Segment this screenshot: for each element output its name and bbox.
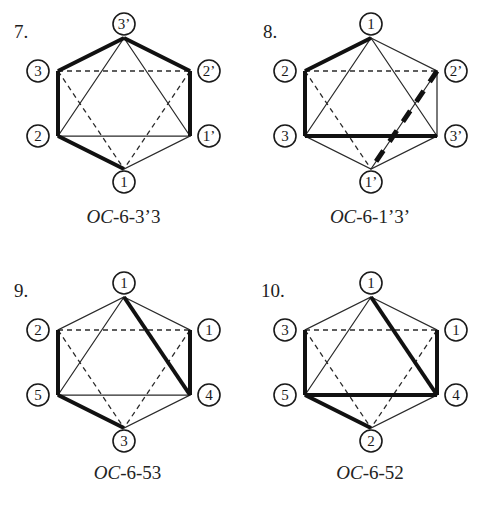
bold-edge-top-lowerright <box>124 297 190 395</box>
vertex-label-upper-right: 2’ <box>445 60 467 82</box>
vertex-label-upper-left: 3 <box>274 319 296 341</box>
vertex-label-text: 3 <box>281 128 289 144</box>
vertex-label-upper-left: 2 <box>274 60 296 82</box>
bold-edge-lowerleft-bottom <box>58 136 124 169</box>
vertex-label-text: 5 <box>34 387 42 403</box>
vertex-label-text: 2 <box>34 322 42 338</box>
bold-edge-top-upperleft <box>305 38 371 71</box>
bold-edge-top-upperleft <box>58 38 124 71</box>
vertex-label-upper-right: 1 <box>198 319 220 341</box>
vertex-label-text: 1 <box>452 322 460 338</box>
caption-rest: -6-1’3’ <box>356 206 410 227</box>
hexagon-outline <box>58 38 190 169</box>
vertex-label-upper-left: 3 <box>27 60 49 82</box>
caption-prefix: OC <box>336 462 362 483</box>
vertex-label-text: 3’ <box>450 128 463 144</box>
octahedron-diagram-9: 1 2 1 5 4 3 <box>0 259 247 474</box>
vertex-label-text: 1 <box>205 322 213 338</box>
solid-inner-left <box>305 297 371 395</box>
vertex-label-lower-left: 2 <box>27 125 49 147</box>
bold-edge-lowerleft-bottom <box>58 395 124 428</box>
caption-rest: -6-52 <box>363 462 404 483</box>
vertex-label-upper-right: 1 <box>445 319 467 341</box>
caption-prefix: OC <box>330 206 356 227</box>
vertex-label-bottom: 1 <box>113 171 135 193</box>
vertex-label-text: 3’ <box>118 16 131 32</box>
vertex-label-lower-right: 3’ <box>445 125 467 147</box>
vertex-label-upper-left: 2 <box>27 319 49 341</box>
panel-caption: OC-6-3’3 <box>0 206 247 228</box>
vertex-label-top: 3’ <box>113 13 135 35</box>
vertex-label-lower-right: 4 <box>198 384 220 406</box>
vertex-label-text: 2 <box>281 63 289 79</box>
vertex-label-top: 1 <box>360 272 382 294</box>
panel-10: 10. 1 3 1 <box>247 259 493 518</box>
panel-caption: OC-6-52 <box>247 462 493 484</box>
vertex-label-bottom: 2 <box>360 430 382 452</box>
vertex-label-text: 4 <box>205 387 213 403</box>
caption-rest: -6-3’3 <box>113 206 160 227</box>
vertex-label-text: 2’ <box>450 63 463 79</box>
vertex-label-text: 2 <box>34 128 42 144</box>
panel-9: 9. 1 2 1 <box>0 259 247 518</box>
vertex-label-text: 1’ <box>365 174 378 190</box>
vertex-label-text: 1 <box>120 275 128 291</box>
caption-rest: -6-53 <box>120 462 161 483</box>
vertex-label-bottom: 3 <box>113 430 135 452</box>
dashed-edge-left <box>305 71 371 169</box>
vertex-label-top: 1 <box>360 13 382 35</box>
dashed-edge-right <box>124 71 190 169</box>
vertex-label-text: 5 <box>281 387 289 403</box>
caption-prefix: OC <box>94 462 120 483</box>
bold-edge-top-upperright <box>124 38 190 71</box>
vertex-label-text: 3 <box>120 433 128 449</box>
panel-caption: OC-6-53 <box>0 462 251 484</box>
vertex-label-text: 3 <box>34 63 42 79</box>
bold-edge-top-lowerright <box>371 297 437 395</box>
vertex-label-lower-left: 5 <box>27 384 49 406</box>
octahedron-diagram-8: 1 2 2’ 3 3’ 1’ <box>247 0 493 215</box>
vertex-label-text: 1’ <box>203 128 216 144</box>
vertex-label-text: 2’ <box>203 63 216 79</box>
hexagon-outline <box>305 38 437 169</box>
vertex-label-top: 1 <box>113 272 135 294</box>
bold-edge-lowerleft-bottom <box>305 395 371 428</box>
vertex-label-upper-right: 2’ <box>198 60 220 82</box>
panel-7: 7. 3’ 3 <box>0 0 247 259</box>
vertex-label-text: 4 <box>452 387 460 403</box>
octahedron-diagram-10: 1 3 1 5 4 2 <box>247 259 493 474</box>
vertex-label-lower-left: 5 <box>274 384 296 406</box>
vertex-label-bottom: 1’ <box>360 171 382 193</box>
vertex-label-text: 2 <box>367 433 375 449</box>
figure-grid: 7. 3’ 3 <box>0 0 493 518</box>
vertex-label-lower-left: 3 <box>274 125 296 147</box>
vertex-label-text: 1 <box>367 275 375 291</box>
vertex-label-lower-right: 4 <box>445 384 467 406</box>
vertex-label-lower-right: 1’ <box>198 125 220 147</box>
solid-inner-left <box>58 297 124 395</box>
panel-caption: OC-6-1’3’ <box>247 206 493 228</box>
vertex-label-text: 1 <box>367 16 375 32</box>
panel-8: 8. 1 2 2’ <box>247 0 493 259</box>
vertex-label-text: 3 <box>281 322 289 338</box>
octahedron-diagram-7: 3’ 3 2’ 2 1’ 1 <box>0 0 247 215</box>
vertex-label-text: 1 <box>120 174 128 190</box>
caption-prefix: OC <box>87 206 113 227</box>
